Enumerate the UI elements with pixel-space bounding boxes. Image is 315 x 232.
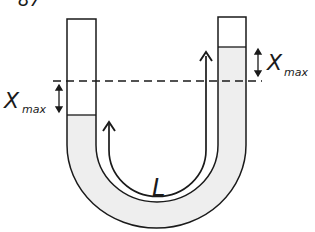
left-xmax-label: X: [3, 88, 20, 113]
right-xmax-label: X: [266, 50, 283, 75]
cropped-header-fragment: 87: [18, 0, 41, 10]
left-xmax-arrow-icon: [56, 85, 62, 112]
right-xmax-arrow-icon: [255, 49, 261, 76]
liquid-column: [60, 47, 260, 232]
left-xmax-subscript: max: [22, 103, 46, 116]
u-tube-diagram: 87 X max X max L: [0, 0, 315, 232]
length-label: L: [152, 174, 165, 202]
right-xmax-subscript: max: [284, 66, 308, 79]
